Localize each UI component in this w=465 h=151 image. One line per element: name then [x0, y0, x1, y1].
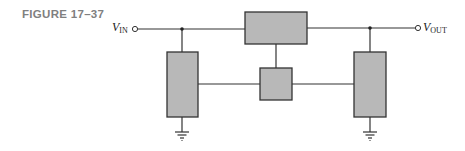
block-diagram — [0, 0, 465, 151]
center-block — [260, 68, 292, 100]
right-block — [354, 52, 386, 117]
ground-icon-right — [363, 132, 377, 141]
vout-terminal-icon — [415, 25, 420, 30]
vin-terminal-icon — [132, 26, 137, 31]
ground-icon-left — [175, 132, 189, 141]
junction-dot-right — [368, 26, 372, 30]
left-block — [167, 52, 198, 117]
top-block — [245, 12, 307, 44]
junction-dot-left — [180, 27, 184, 31]
